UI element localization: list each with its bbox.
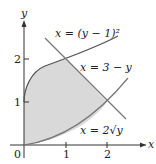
x-tick-label-1: 1 bbox=[63, 148, 70, 161]
x-tick-label-2: 2 bbox=[104, 148, 111, 161]
y-axis-label: y bbox=[20, 7, 28, 20]
label-line: x = 3 − y bbox=[80, 61, 133, 74]
y-tick-label-1: 1 bbox=[14, 96, 21, 109]
region-plot: y x 0 1 2 1 2 x = (y − 1)² x = 3 − y x =… bbox=[0, 0, 156, 164]
origin-label: 0 bbox=[14, 148, 21, 161]
x-axis-label: x bbox=[148, 138, 155, 151]
x-axis-arrow-icon bbox=[140, 143, 146, 148]
label-upper-curve: x = (y − 1)² bbox=[55, 27, 120, 40]
diagram: y x 0 1 2 1 2 x = (y − 1)² x = 3 − y x =… bbox=[0, 0, 156, 164]
label-lower-curve: x = 2√y bbox=[80, 124, 123, 137]
y-tick-label-2: 2 bbox=[14, 53, 21, 66]
y-axis-arrow-icon bbox=[22, 20, 27, 27]
